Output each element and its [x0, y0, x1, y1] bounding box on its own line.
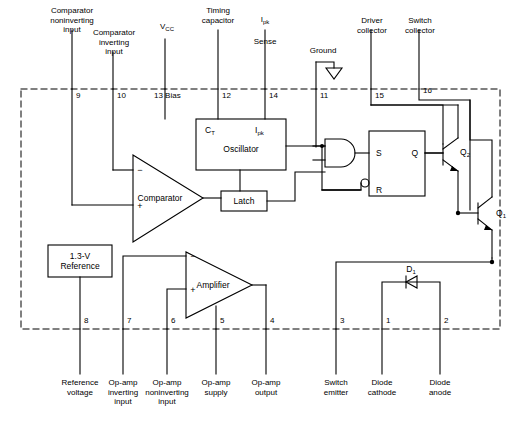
flipflop-s-label: S [376, 148, 382, 158]
oscillator-ipk-label: Ipk [255, 125, 265, 136]
transistor-q1-label: Q1 [496, 208, 507, 219]
ff-reset-bubble [361, 179, 369, 187]
latch-out-route [267, 172, 325, 201]
amplifier-label: Amplifier [196, 280, 229, 290]
flipflop-q-label: Q [411, 148, 418, 158]
and-gate-body [325, 139, 355, 167]
q1-collector [478, 197, 492, 208]
transistor-q2-label: Q2 [460, 147, 471, 158]
q1-collector-to-pin16 [470, 100, 492, 197]
osc-branch-to-and [322, 146, 360, 190]
ipk-sense-text: Sense [254, 37, 277, 46]
pin-number-1: 1 [386, 316, 390, 325]
pin-number-2: 2 [444, 316, 448, 325]
pin-number-14: 14 [269, 91, 278, 100]
reference-label-line1: 1.3-V [70, 251, 91, 261]
pin6-route [167, 289, 186, 329]
ground-icon [326, 68, 342, 79]
pin-number-7: 7 [127, 316, 131, 325]
reference-label-line2: Reference [60, 261, 99, 271]
vcc-subscript: CC [165, 26, 174, 32]
diode-d1-label: D1 [406, 264, 416, 275]
pin-number-13-bias: 13 Bias [154, 91, 181, 100]
terminal-label-vcc: VCC [152, 22, 182, 35]
pin-number-6: 6 [171, 316, 175, 325]
terminal-label-comparator-inverting: Comparator inverting input [72, 28, 156, 57]
pin-number-8: 8 [84, 316, 88, 325]
terminal-label-diode-anode: Diode anode [411, 378, 469, 397]
pin7-route [123, 256, 186, 329]
ic-boundary-dashed [21, 89, 500, 329]
q1-base-junction [456, 211, 460, 215]
latch-label: Latch [234, 196, 255, 206]
comparator-label: Comparator [138, 193, 183, 203]
comparator-plus-sign: + [137, 201, 142, 211]
oscillator-ct-label: CT [205, 125, 215, 136]
amplifier-plus-sign: + [190, 285, 195, 295]
pin-number-10: 10 [117, 91, 126, 100]
terminal-label-diode-cathode: Diode cathode [353, 378, 411, 397]
pin-number-11: 11 [320, 91, 328, 100]
oscillator-label: Oscillator [223, 144, 259, 154]
block-diagram-canvas: Oscillator CT Ipk Comparator − + Latch A… [0, 0, 521, 421]
pin-number-15: 15 [375, 91, 384, 100]
pin15-route [371, 105, 443, 144]
q2-collector [443, 138, 458, 149]
q2-emitter-arrow [450, 166, 458, 171]
terminal-label-opamp-output: Op-amp output [237, 378, 295, 397]
terminal-label-switch-collector: Switch collector [392, 16, 448, 35]
terminal-label-ground: Ground [300, 46, 346, 56]
pin-number-12: 12 [222, 91, 231, 100]
comparator-minus-sign: − [137, 165, 142, 175]
flipflop-r-label: R [376, 185, 382, 195]
q1-emitter-arrow [484, 225, 492, 230]
pin-number-4: 4 [270, 316, 274, 325]
ff-r-in-route [322, 183, 361, 190]
terminal-label-ipk-sense: Ipk Sense [240, 5, 290, 46]
amplifier-minus-sign: − [190, 251, 195, 261]
ground-wire [316, 62, 334, 68]
pin-number-5: 5 [220, 316, 224, 325]
circuit-schematic-svg: Oscillator CT Ipk Comparator − + Latch A… [0, 0, 521, 421]
diode-wire [382, 282, 440, 329]
pin-number-9: 9 [76, 91, 80, 100]
ipk-subscript: pk [263, 19, 269, 25]
pin-number-16: 16 [423, 86, 432, 95]
pin-number-3: 3 [340, 316, 344, 325]
